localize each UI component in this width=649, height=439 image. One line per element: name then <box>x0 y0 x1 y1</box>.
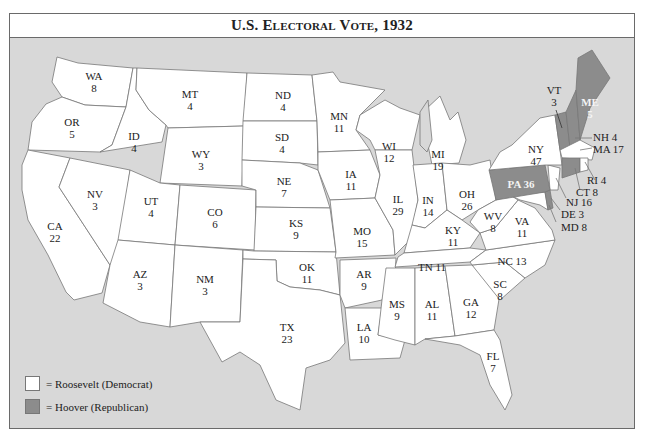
label-SD: SD 4 <box>275 131 289 155</box>
label-MD: MD 8 <box>561 221 587 233</box>
label-ID: ID 4 <box>128 130 140 154</box>
label-AL: AL 11 <box>425 298 440 322</box>
label-TX: TX 23 <box>280 321 295 345</box>
label-TN: TN 11 <box>418 261 446 273</box>
label-MN: MN 11 <box>330 110 348 134</box>
label-MT: MT 4 <box>182 88 199 112</box>
label-NH: NH 4 <box>593 131 617 143</box>
label-OR: OR 5 <box>64 116 79 140</box>
label-CT: CT 8 <box>576 186 598 198</box>
legend-swatch-roosevelt <box>25 376 40 391</box>
label-IL: IL 29 <box>393 193 404 217</box>
label-WY: WY 3 <box>192 148 210 172</box>
label-ME: ME 5 <box>581 96 599 120</box>
label-KS: KS 9 <box>289 217 303 241</box>
label-MO: MO 15 <box>353 225 371 249</box>
label-MI: MI 19 <box>431 148 444 172</box>
label-VT: VT 3 <box>547 84 562 108</box>
label-OK: OK 11 <box>299 261 315 285</box>
state-ME[interactable] <box>576 50 610 140</box>
label-NE: NE 7 <box>277 175 292 199</box>
label-KY: KY 11 <box>445 224 461 248</box>
label-PA: PA 36 <box>508 178 535 190</box>
legend-swatch-hoover <box>25 399 40 414</box>
label-IN: IN 14 <box>422 194 434 218</box>
label-UT: UT 4 <box>144 195 159 219</box>
label-DE: DE 3 <box>561 208 584 220</box>
label-WI: WI 12 <box>382 140 396 164</box>
label-NC: NC 13 <box>497 255 526 267</box>
label-IA: IA 11 <box>345 168 357 192</box>
label-OH: OH 26 <box>459 188 475 212</box>
label-ND: ND 4 <box>275 89 291 113</box>
legend-label-roosevelt: = Roosevelt (Democrat) <box>46 378 152 390</box>
label-LA: LA 10 <box>357 321 372 345</box>
label-CO: CO 6 <box>207 206 222 230</box>
label-WA: WA 8 <box>85 70 102 94</box>
label-WV: WV 8 <box>484 210 502 234</box>
label-MS: MS 9 <box>389 298 405 322</box>
state-NJ[interactable] <box>548 165 560 190</box>
legend-label-hoover: = Hoover (Republican) <box>46 401 148 413</box>
label-SC: SC 8 <box>493 278 506 302</box>
legend-roosevelt: = Roosevelt (Democrat) <box>25 376 152 391</box>
us-map <box>0 0 649 439</box>
label-AR: AR 9 <box>356 268 371 292</box>
label-RI: RI 4 <box>587 174 606 186</box>
state-CT[interactable] <box>562 158 580 178</box>
label-VA: VA 11 <box>515 215 529 239</box>
label-NV: NV 3 <box>87 188 103 212</box>
label-CA: CA 22 <box>47 220 62 244</box>
label-GA: GA 12 <box>463 296 479 320</box>
label-NY: NY 47 <box>528 143 544 167</box>
label-FL: FL 7 <box>487 350 500 374</box>
state-NY[interactable] <box>489 115 562 170</box>
label-NM: NM 3 <box>196 273 214 297</box>
label-MA: MA 17 <box>593 143 624 155</box>
legend-hoover: = Hoover (Republican) <box>25 399 148 414</box>
label-AZ: AZ 3 <box>133 268 148 292</box>
